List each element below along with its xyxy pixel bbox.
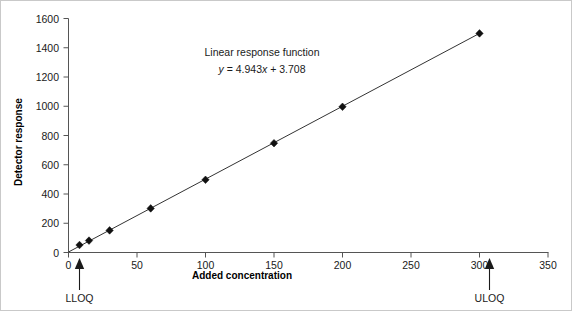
- y-tick-label-400: 400: [41, 188, 59, 200]
- x-axis-title: Added concentration: [192, 270, 292, 281]
- x-axis-ticks: [69, 253, 549, 258]
- lloq-arrow-head: [75, 258, 84, 269]
- x-tick-label-50: 50: [131, 259, 143, 271]
- data-point: [106, 227, 113, 235]
- y-tick-label-1000: 1000: [36, 100, 60, 112]
- equation-coefficient: = 4.943: [224, 63, 262, 75]
- x-tick-label-300: 300: [471, 259, 489, 271]
- y-tick-label-600: 600: [41, 159, 59, 171]
- data-point: [270, 139, 277, 147]
- data-point: [147, 205, 154, 213]
- y-tick-label-1600: 1600: [36, 13, 60, 25]
- figure-canvas: 1600 1400 1200 1000 800 600 400 200 0 0 …: [0, 0, 573, 312]
- data-point: [202, 176, 209, 184]
- y-tick-label-1200: 1200: [36, 71, 60, 83]
- lloq-label: LLOQ: [65, 292, 93, 304]
- data-point: [476, 30, 483, 38]
- fit-title-annotation: Linear response function: [205, 46, 320, 58]
- data-point: [339, 103, 346, 111]
- x-tick-label-250: 250: [402, 259, 420, 271]
- y-axis-title: Detector response: [13, 98, 24, 186]
- x-tick-label-200: 200: [334, 259, 352, 271]
- fit-equation-annotation: y = 4.943x + 3.708: [218, 63, 306, 75]
- y-tick-label-200: 200: [41, 217, 59, 229]
- y-axis-ticks: [64, 19, 69, 253]
- x-tick-label-350: 350: [539, 259, 557, 271]
- equation-intercept: + 3.708: [267, 63, 305, 75]
- data-point: [85, 237, 92, 245]
- y-tick-label-0: 0: [53, 247, 59, 259]
- uloq-label: ULOQ: [475, 292, 505, 304]
- y-tick-label-800: 800: [41, 130, 59, 142]
- linearity-scatter-chart: 1600 1400 1200 1000 800 600 400 200 0 0 …: [0, 0, 573, 312]
- x-tick-label-0: 0: [66, 259, 72, 271]
- y-tick-label-1400: 1400: [36, 42, 60, 54]
